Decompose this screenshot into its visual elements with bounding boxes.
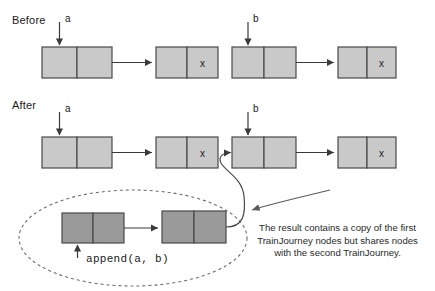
result-note-line-2: TrainJourney nodes but shares nodes bbox=[250, 235, 425, 248]
node-cell-next bbox=[264, 47, 296, 78]
node-cell-data bbox=[338, 137, 367, 168]
node-cell-data bbox=[162, 211, 194, 243]
append-call-label: append(a, b) bbox=[86, 253, 169, 265]
before-list-b: x bbox=[232, 22, 396, 78]
node-cell-data bbox=[42, 47, 77, 78]
node-cell-data bbox=[62, 213, 93, 243]
node-cell-data bbox=[156, 47, 187, 78]
section-label-before: Before bbox=[12, 14, 46, 26]
node-cell-data bbox=[156, 137, 187, 168]
node-cell-next bbox=[77, 137, 112, 168]
before-list-a: x bbox=[42, 22, 218, 78]
node-cell-next bbox=[77, 47, 112, 78]
after-list-b: x bbox=[232, 112, 396, 168]
result-note: The result contains a copy of the first … bbox=[250, 222, 425, 260]
diagram-canvas: x x x bbox=[0, 0, 435, 291]
note-callout-arrow bbox=[252, 190, 330, 210]
null-mark: x bbox=[200, 148, 205, 159]
result-note-line-3: with the second TrainJourney. bbox=[250, 247, 425, 260]
node-cell-data bbox=[42, 137, 77, 168]
section-label-after: After bbox=[12, 99, 36, 111]
node-cell-next bbox=[93, 213, 124, 243]
null-mark: x bbox=[379, 148, 384, 159]
pointer-label-before-a: a bbox=[65, 13, 71, 24]
result-note-line-1: The result contains a copy of the first bbox=[250, 222, 425, 235]
null-mark: x bbox=[379, 58, 384, 69]
node-cell-next bbox=[264, 137, 296, 168]
pointer-label-after-a: a bbox=[65, 103, 71, 114]
result-list bbox=[62, 211, 226, 258]
pointer-label-before-b: b bbox=[253, 13, 259, 24]
after-list-a: x bbox=[42, 112, 218, 168]
node-cell-data bbox=[338, 47, 367, 78]
pointer-label-after-b: b bbox=[253, 103, 259, 114]
node-cell-next bbox=[194, 211, 226, 243]
node-cell-data bbox=[232, 137, 264, 168]
node-cell-data bbox=[232, 47, 264, 78]
null-mark: x bbox=[200, 58, 205, 69]
